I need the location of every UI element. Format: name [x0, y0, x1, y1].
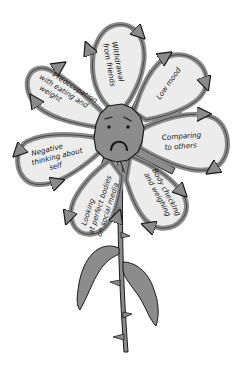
- leaf-right: [123, 262, 158, 326]
- thorn-icon: [123, 312, 132, 318]
- cycle-arrow-icon: [54, 66, 60, 70]
- flower-svg: Withdrawal from friends Low mood Compari…: [0, 0, 241, 372]
- cycle-arrow-icon: [204, 78, 206, 84]
- leaves: [77, 246, 158, 326]
- cycle-arrow-icon: [52, 182, 58, 184]
- cycle-arrow-icon: [148, 226, 154, 228]
- thorn-icon: [121, 232, 130, 238]
- cycle-arrow-icon: [116, 216, 118, 222]
- leaf-left: [77, 246, 119, 310]
- cycle-arrow-icon: [88, 48, 92, 58]
- thorn-icon: [110, 280, 120, 286]
- flower-center: [94, 104, 144, 162]
- thorn-icon: [113, 334, 124, 340]
- cycle-arrow-icon: [68, 212, 70, 218]
- flower-diagram: Withdrawal from friends Low mood Compari…: [0, 0, 241, 372]
